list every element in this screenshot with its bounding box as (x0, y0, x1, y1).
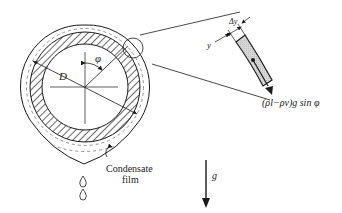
film-label: Condensate (106, 163, 153, 174)
y-label: y (206, 40, 211, 50)
condensate-drops (80, 176, 86, 200)
force-label: (ρl−ρv)g sin φ (262, 97, 320, 109)
condensation-diagram: D φ Condensate film g (0, 0, 342, 213)
diameter-label: D (58, 70, 67, 82)
film-label-line2: film (122, 174, 139, 185)
gravity-label: g (212, 170, 217, 181)
angle-label: φ (95, 52, 101, 64)
film-label-group: Condensate film (106, 148, 154, 185)
dy-label: Δy (228, 17, 238, 26)
gravity-arrow: g (202, 160, 217, 208)
